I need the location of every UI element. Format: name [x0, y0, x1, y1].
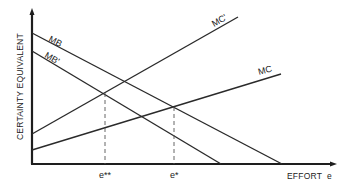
equilibrium-guides — [105, 93, 174, 164]
curve-mb-prime — [32, 51, 221, 164]
curve-mb — [32, 33, 282, 164]
effort-diagram: MB MB' MC' MC e** e* EFFORT e CERTAINTY … — [0, 0, 351, 186]
label-mb: MB — [47, 34, 64, 49]
x-axis-label: EFFORT e — [287, 171, 332, 181]
curve-mc-prime — [32, 17, 238, 134]
label-mc-prime: MC' — [210, 12, 229, 29]
label-mc: MC — [257, 64, 274, 77]
y-axis-label: CERTAINTY EQUIVALENT — [15, 33, 25, 140]
tick-e-star: e* — [170, 170, 179, 180]
x-axis-arrow-icon — [330, 162, 337, 167]
y-axis-arrow-icon — [30, 8, 35, 15]
label-mb-prime: MB' — [43, 50, 61, 66]
curves — [32, 17, 282, 164]
tick-e-double-star: e** — [99, 170, 112, 180]
axes — [30, 8, 338, 167]
